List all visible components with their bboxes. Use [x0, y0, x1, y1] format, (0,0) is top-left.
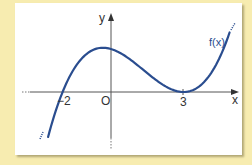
curve-left-continuation — [40, 132, 43, 139]
tick-label-3: 3 — [180, 95, 187, 109]
tick-label-neg2: −2 — [57, 94, 71, 108]
x-axis — [22, 89, 239, 95]
function-graph: y x O −2 3 f(x) — [0, 0, 252, 165]
y-axis-label: y — [99, 11, 105, 25]
x-axis-label: x — [232, 93, 238, 107]
y-axis-arrow-icon — [108, 13, 114, 21]
curve-f-of-x — [48, 33, 230, 137]
curve-right-continuation — [231, 23, 235, 30]
y-axis — [108, 13, 114, 149]
curve-label: f(x) — [209, 36, 225, 48]
origin-label: O — [101, 94, 110, 108]
